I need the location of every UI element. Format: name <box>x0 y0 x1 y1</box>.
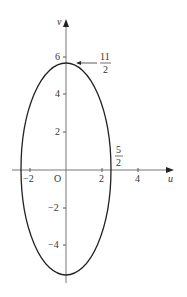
fraction-denominator: 2 <box>116 157 121 168</box>
fraction-numerator: 5 <box>116 144 121 155</box>
arrowhead-icon <box>76 61 81 65</box>
v-tick-label: −4 <box>48 239 59 250</box>
v-tick-label: 6 <box>55 51 60 62</box>
fraction-5-over-2: 5 2 <box>115 144 123 168</box>
v-tick-label: 2 <box>55 126 60 137</box>
v-axis-arrow-icon <box>63 19 69 27</box>
u-axis-label: u <box>168 173 173 184</box>
fraction-11-over-2: 11 2 <box>100 51 111 75</box>
ellipse-diagram: v u O −2 2 4 6 4 2 −2 −4 11 2 5 2 <box>0 0 187 297</box>
fraction-denominator: 2 <box>103 64 108 75</box>
v-tick-label: 4 <box>55 88 60 99</box>
u-tick-label: −2 <box>23 173 34 184</box>
v-tick-label: −2 <box>48 202 59 213</box>
origin-label: O <box>54 173 61 184</box>
u-tick-label: 2 <box>99 173 104 184</box>
v-axis-label: v <box>57 16 62 27</box>
u-tick-label: 4 <box>135 173 140 184</box>
fraction-numerator: 11 <box>100 51 110 62</box>
